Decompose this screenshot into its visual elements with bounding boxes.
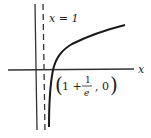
x-axis	[8, 69, 134, 70]
intercept-tail: , 0	[95, 80, 109, 93]
intercept-close-paren: )	[110, 73, 118, 97]
intercept-fraction-num: 1	[85, 75, 91, 85]
asymptote-label: x = 1	[49, 12, 78, 25]
intercept-label: ( 1 + 1 e , 0 )	[55, 73, 118, 98]
intercept-one-plus: 1 +	[62, 80, 82, 93]
function-graph: x = 1 x ( 1 + 1 e , 0 )	[0, 0, 151, 138]
intercept-fraction-den: e	[84, 88, 89, 98]
graph-svg: x = 1 x ( 1 + 1 e , 0 )	[0, 0, 151, 138]
y-axis	[35, 4, 37, 130]
x-axis-label: x	[138, 63, 145, 76]
asymptote-line	[43, 4, 45, 132]
